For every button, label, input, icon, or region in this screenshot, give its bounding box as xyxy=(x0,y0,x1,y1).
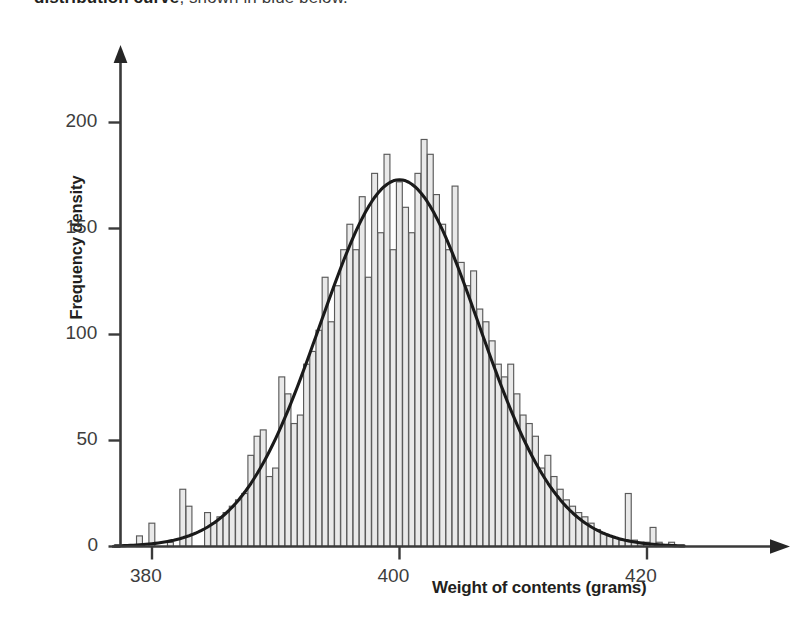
histogram-bar xyxy=(477,309,483,546)
x-axis-ticks xyxy=(152,547,647,560)
histogram-bar xyxy=(464,286,470,547)
x-axis-label: Weight of contents (grams) xyxy=(432,578,647,598)
histogram-bar xyxy=(335,286,341,547)
histogram-bar xyxy=(415,173,421,546)
y-tick-label: 150 xyxy=(66,216,98,238)
histogram-bar xyxy=(279,377,285,547)
histogram-bar xyxy=(236,500,242,547)
histogram-bar xyxy=(625,494,631,547)
histogram-bar xyxy=(434,195,440,547)
histogram-bar xyxy=(372,173,378,546)
histogram-bar xyxy=(260,430,266,547)
y-axis-ticks xyxy=(109,123,121,547)
histogram-bar xyxy=(396,182,402,547)
histogram-bar xyxy=(304,364,310,546)
histogram-bar xyxy=(384,154,390,546)
histogram-bar xyxy=(533,436,539,546)
histogram-bar xyxy=(254,436,260,546)
histogram-bar xyxy=(452,186,458,546)
histogram-bar xyxy=(378,233,384,547)
x-tick-label: 400 xyxy=(378,565,410,587)
histogram-bar xyxy=(242,494,248,547)
histogram-bar xyxy=(211,523,217,546)
histogram-bar xyxy=(526,424,532,547)
histogram-bar xyxy=(483,322,489,547)
histogram-bar xyxy=(489,341,495,547)
chart-canvas xyxy=(0,0,807,637)
histogram-bar xyxy=(273,468,279,546)
histogram-bar xyxy=(539,468,545,546)
arrow-right-icon xyxy=(770,539,790,553)
y-tick-label: 50 xyxy=(77,428,98,450)
histogram-bar xyxy=(545,455,551,546)
histogram-bar xyxy=(266,477,272,547)
histogram-bar xyxy=(508,364,514,546)
histogram-bar xyxy=(446,250,452,547)
x-tick-label: 420 xyxy=(625,565,657,587)
histogram-bar xyxy=(495,364,501,546)
histogram-bar xyxy=(353,250,359,547)
histogram-bar xyxy=(359,197,365,547)
histogram-chart: Frequency density Weight of contents (gr… xyxy=(0,0,807,637)
y-tick-label: 100 xyxy=(66,322,98,344)
histogram-bar xyxy=(458,262,464,546)
histogram-bar xyxy=(310,351,316,546)
histogram-bar xyxy=(248,455,254,546)
histogram-bar xyxy=(440,224,446,546)
histogram-bar xyxy=(316,330,322,546)
y-tick-label: 200 xyxy=(66,110,98,132)
histogram-bar xyxy=(409,233,415,547)
arrow-up-icon xyxy=(114,45,128,63)
histogram-bar xyxy=(291,424,297,547)
x-tick-label: 380 xyxy=(130,565,162,587)
histogram-bar xyxy=(229,506,235,546)
histogram-bar xyxy=(223,513,229,547)
histogram-bar xyxy=(365,277,371,546)
histogram-bar xyxy=(403,207,409,546)
histogram-bar xyxy=(297,415,303,546)
chart-screenshot: distribution curve, shown in blue below.… xyxy=(0,0,807,637)
histogram-bar xyxy=(347,224,353,546)
y-tick-label: 0 xyxy=(88,534,99,556)
histogram-bar xyxy=(186,506,192,546)
histogram-bars xyxy=(137,139,675,546)
histogram-bar xyxy=(390,250,396,547)
histogram-bar xyxy=(341,250,347,547)
histogram-bar xyxy=(328,322,334,547)
